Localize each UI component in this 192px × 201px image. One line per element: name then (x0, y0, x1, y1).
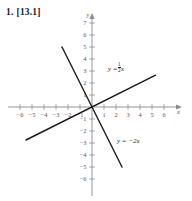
y-tick-label: 6 (83, 31, 86, 38)
y-tick-label: −2 (80, 127, 87, 134)
y-axis-label: y (86, 11, 90, 18)
y-axis-arrow (89, 13, 94, 19)
y-tick-label: 3 (83, 67, 86, 74)
y-tick-label: −5 (80, 163, 87, 170)
y-axis-ticks: −6−5−4−3−2−11234567 (80, 19, 95, 182)
y-tick-label: 2 (83, 79, 86, 86)
x-tick-label: −3 (53, 111, 60, 118)
x-tick-label: 6 (162, 111, 165, 118)
x-tick-label: −2 (65, 111, 72, 118)
x-tick-label: 2 (114, 111, 117, 118)
y-tick-label: 5 (83, 43, 86, 50)
y-tick-label: 4 (83, 55, 87, 62)
y-tick-label: 7 (83, 19, 87, 26)
x-tick-label: −6 (17, 111, 24, 118)
equation-label-half-x: y =12x (108, 62, 124, 74)
equation-lhs-half: y = (108, 65, 118, 73)
equation-variable-half: x (121, 65, 124, 73)
equation-label-neg-two-x: y = −2x (117, 138, 140, 145)
x-tick-label: 5 (150, 111, 153, 118)
y-tick-label: −4 (80, 151, 88, 158)
line-series-half-x (26, 75, 156, 140)
y-tick-label: −1 (80, 115, 87, 122)
x-axis-label: x (176, 108, 180, 115)
x-tick-label: 1 (102, 111, 105, 118)
x-tick-label: 4 (138, 111, 142, 118)
x-tick-label: −4 (41, 111, 49, 118)
x-tick-label: 3 (126, 111, 129, 118)
coordinate-plane-graph: −6−5−4−3−2−1123456 −6−5−4−3−2−11234567 x… (0, 0, 192, 201)
y-tick-label: −3 (80, 139, 87, 146)
x-tick-label: −5 (29, 111, 36, 118)
y-tick-label: −6 (80, 175, 87, 182)
